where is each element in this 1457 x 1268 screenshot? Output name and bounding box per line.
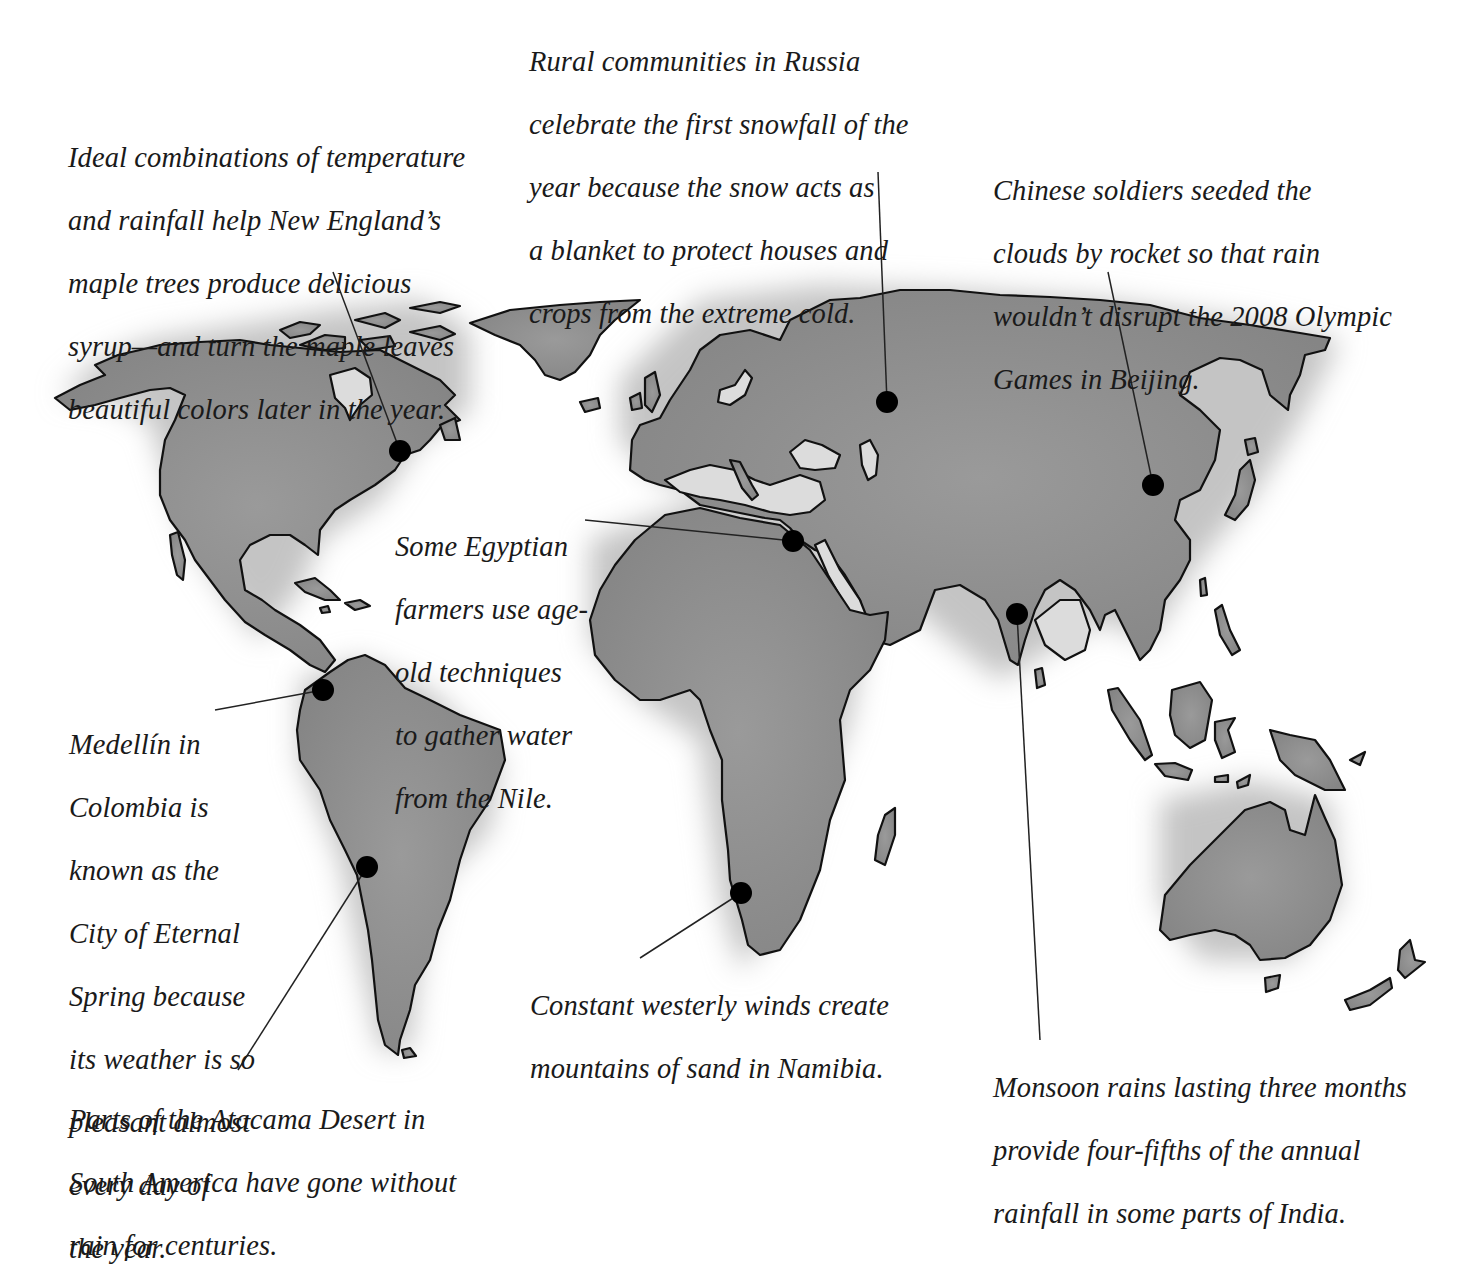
- cuba: [295, 578, 340, 600]
- new-zealand-north: [1398, 940, 1425, 978]
- madagascar: [875, 808, 895, 865]
- caribbean-isle: [320, 606, 330, 613]
- location-dot-icon: [782, 530, 804, 552]
- hokkaido: [1245, 438, 1258, 455]
- annotation-namibia: Constant westerly winds create mountains…: [530, 958, 889, 1116]
- annotation-new-england: Ideal combinations of temperature and ra…: [68, 110, 465, 457]
- location-dot-icon: [730, 882, 752, 904]
- annotation-egypt: Some Egyptian farmers use age- old techn…: [395, 499, 588, 846]
- new-zealand-south: [1345, 978, 1392, 1010]
- taiwan: [1200, 578, 1207, 596]
- location-dot-icon: [356, 856, 378, 878]
- philippines: [1215, 605, 1240, 655]
- annotation-russia: Rural communities in Russia celebrate th…: [529, 14, 909, 361]
- new-guinea: [1270, 730, 1345, 790]
- iceland: [580, 398, 600, 412]
- tierra-del-fuego: [402, 1048, 416, 1058]
- lesser-sunda: [1237, 775, 1250, 788]
- sri-lanka: [1035, 668, 1045, 688]
- leader-line-atacama: [238, 867, 367, 1070]
- borneo: [1170, 682, 1212, 748]
- lesser-sunda: [1215, 775, 1228, 782]
- hispaniola: [345, 600, 370, 610]
- annotation-india: Monsoon rains lasting three months provi…: [993, 1040, 1407, 1261]
- java: [1155, 763, 1192, 780]
- tasmania: [1265, 975, 1280, 992]
- baja: [170, 532, 185, 580]
- annotation-atacama: Parts of the Atacama Desert in South Ame…: [69, 1072, 456, 1268]
- leader-line-namibia: [640, 893, 741, 958]
- location-dot-icon: [1006, 603, 1028, 625]
- sumatra: [1108, 688, 1152, 760]
- location-dot-icon: [876, 391, 898, 413]
- sulawesi: [1215, 718, 1235, 758]
- annotation-beijing: Chinese soldiers seeded the clouds by ro…: [993, 143, 1392, 427]
- location-dot-icon: [1142, 474, 1164, 496]
- location-dot-icon: [312, 679, 334, 701]
- new-britain: [1350, 752, 1365, 765]
